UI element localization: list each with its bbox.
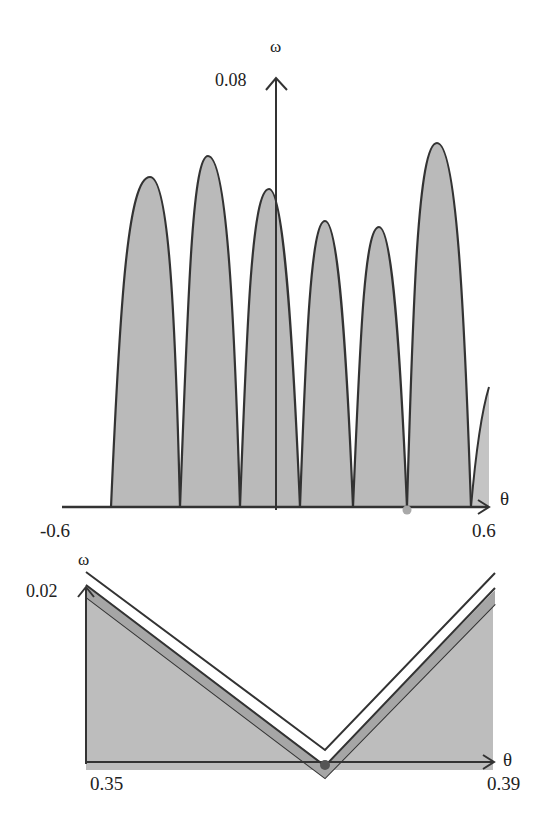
figure: ω 0.08 θ -0.6 0.6 ω 0.02 θ 0.35 0.39 bbox=[0, 0, 557, 814]
top-x-max-label: 0.6 bbox=[472, 520, 496, 541]
top-y-axis-label: ω bbox=[270, 37, 281, 56]
top-lobes bbox=[111, 143, 471, 507]
lobe-5 bbox=[353, 227, 407, 507]
bottom-x-min-label: 0.35 bbox=[90, 773, 123, 794]
lobe-2 bbox=[180, 156, 240, 507]
partial-lobe-fill bbox=[471, 387, 489, 507]
bottom-y-max-label: 0.02 bbox=[26, 581, 58, 601]
lobe-1 bbox=[111, 177, 180, 507]
lobe-3 bbox=[240, 189, 300, 507]
top-x-axis-label: θ bbox=[500, 488, 509, 509]
lobe-4 bbox=[300, 221, 353, 507]
top-x-min-label: -0.6 bbox=[40, 520, 70, 541]
bottom-marker-dot bbox=[320, 760, 330, 770]
lobe-6 bbox=[407, 143, 471, 507]
top-y-max-label: 0.08 bbox=[215, 70, 247, 90]
bottom-x-max-label: 0.39 bbox=[487, 773, 520, 794]
bottom-x-axis-label: θ bbox=[503, 749, 512, 770]
bottom-chart: ω 0.02 θ 0.35 0.39 bbox=[26, 550, 520, 794]
bottom-y-axis-label: ω bbox=[78, 550, 89, 569]
top-chart: ω 0.08 θ -0.6 0.6 bbox=[40, 37, 509, 541]
top-marker-dot bbox=[403, 506, 412, 515]
